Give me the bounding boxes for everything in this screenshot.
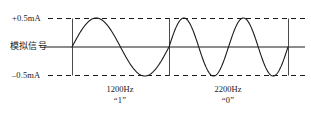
segment-one-frequency: 1200Hz <box>88 84 152 95</box>
axis-label-negative-half-milliamp: –0.5mA <box>12 71 40 80</box>
axis-label-analog-signal: 模拟信号 <box>10 42 47 51</box>
segment-one-bit: “1” <box>88 95 152 106</box>
segment-caption-two: 2200Hz “0” <box>196 84 260 106</box>
segment-two-bit: “0” <box>196 95 260 106</box>
segment-two-frequency: 2200Hz <box>196 84 260 95</box>
fsk-waveform-figure: +0.5mA 模拟信号 –0.5mA 1200Hz “1” 2200Hz “0” <box>0 0 311 115</box>
axis-label-positive-half-milliamp: +0.5mA <box>12 14 41 23</box>
segment-caption-one: 1200Hz “1” <box>88 84 152 106</box>
waveform-plot <box>0 0 311 115</box>
